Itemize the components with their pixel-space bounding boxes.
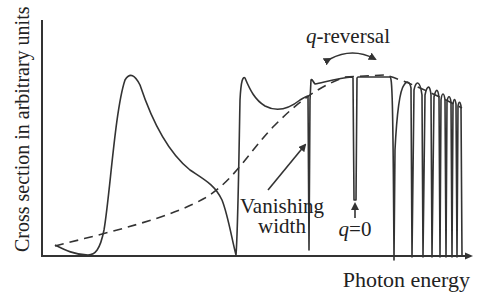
axes [41,20,473,260]
double-arrow-icon [330,53,375,59]
fano-resonance-diagram: Cross section in arbitrary units Photon … [0,0,483,297]
x-axis-label: Photon energy [343,267,470,292]
vanishing-width-label-line2: width [258,214,306,238]
x-axis-arrowhead-icon [465,253,473,260]
q-reversal-label: q-reversal [306,24,390,48]
y-axis-label: Cross section in arbitrary units [11,6,34,252]
q-zero-label: q=0 [339,217,372,241]
vanishing-width-arrow-icon [268,145,305,190]
